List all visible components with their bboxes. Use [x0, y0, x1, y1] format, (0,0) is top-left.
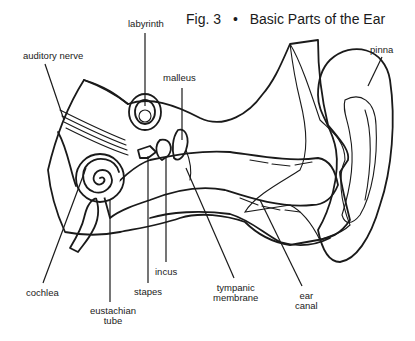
leader-ear-canal — [260, 200, 302, 286]
label-eustachian-line2: tube — [90, 316, 136, 326]
label-malleus: malleus — [163, 73, 196, 83]
figure-number: Fig. 3 — [186, 11, 221, 27]
title-separator: • — [233, 11, 238, 27]
label-pinna: pinna — [370, 45, 393, 55]
label-auditory-nerve: auditory nerve — [23, 51, 83, 61]
leader-auditory-nerve — [45, 64, 64, 120]
leader-pinna — [368, 57, 382, 86]
temporal-bone — [48, 40, 350, 245]
label-eustachian-tube: eustachian tube — [90, 306, 136, 326]
pinna-fold — [365, 110, 370, 200]
label-tympanic-line2: membrane — [213, 293, 258, 303]
eustachian-tube-shape — [70, 198, 98, 252]
leader-tympanic-membrane — [186, 168, 234, 278]
figure-title-text: Basic Parts of the Ear — [250, 11, 385, 27]
label-tympanic-membrane: tympanic membrane — [213, 283, 258, 303]
ossicles — [138, 130, 191, 180]
label-labyrinth: labyrinth — [128, 19, 164, 29]
cochlea-shape — [76, 154, 124, 202]
label-ear-canal-line2: canal — [295, 301, 318, 311]
upper-skull-outline — [84, 80, 128, 104]
lower-bone-outline — [150, 212, 330, 245]
label-incus: incus — [155, 267, 177, 277]
label-cochlea: cochlea — [26, 288, 59, 298]
label-stapes: stapes — [134, 287, 162, 297]
label-ear-canal: ear canal — [295, 291, 318, 311]
pinna-shape — [318, 49, 393, 262]
figure-title: Fig. 3 • Basic Parts of the Ear — [186, 11, 385, 27]
